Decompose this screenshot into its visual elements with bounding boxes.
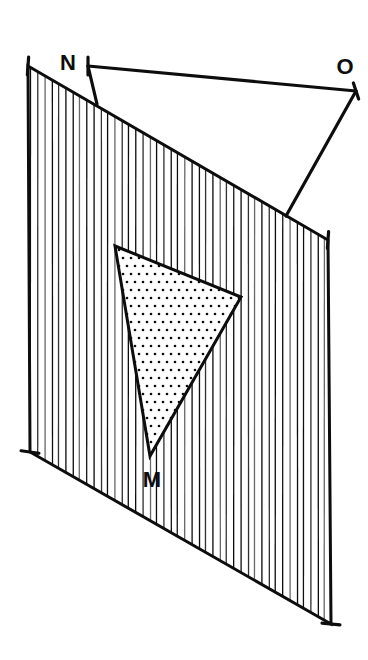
point-label-o: O [336, 54, 353, 79]
tick-mark-plane-top-right [327, 232, 328, 249]
figure-canvas: N O M [0, 0, 368, 660]
tick-mark-plane-bottom-right [322, 623, 340, 625]
line-o-to-plane [286, 91, 356, 216]
point-label-m: M [143, 467, 161, 492]
line-n-to-o [88, 66, 356, 91]
point-label-n: N [60, 50, 76, 75]
tick-mark-plane-top-left [27, 57, 28, 75]
geometry-diagram: N O M [0, 0, 368, 660]
